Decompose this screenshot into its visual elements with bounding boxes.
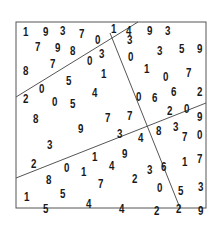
digit: 4 xyxy=(138,131,143,144)
digit: 0 xyxy=(95,33,100,46)
digit: 1 xyxy=(24,190,29,203)
digit: 7 xyxy=(50,57,55,70)
digit: 7 xyxy=(105,111,110,124)
digit-puzzle-board: 1937017980387150420589773201349481715544… xyxy=(0,0,221,236)
digit: 5 xyxy=(66,74,71,87)
divider-line xyxy=(16,22,138,97)
digit: 0 xyxy=(64,161,69,174)
digit: 0 xyxy=(52,95,57,108)
digit: 0 xyxy=(128,50,133,63)
divider-line xyxy=(110,33,180,208)
digit: 2 xyxy=(154,204,159,217)
digit: 0 xyxy=(157,181,162,194)
digit: 0 xyxy=(39,82,44,95)
digit: 9 xyxy=(55,41,60,54)
digit: 1 xyxy=(81,165,86,178)
digit: 5 xyxy=(60,187,65,200)
digit: 7 xyxy=(79,27,84,40)
digit: 1 xyxy=(144,62,149,75)
digit: 9 xyxy=(197,110,202,123)
digit: 3 xyxy=(165,24,170,37)
puzzle-frame xyxy=(16,22,206,208)
digit: 6 xyxy=(161,160,166,173)
digit: 7 xyxy=(127,109,132,122)
digit: 0 xyxy=(197,128,202,141)
digit: 8 xyxy=(70,44,75,57)
digit: 7 xyxy=(182,130,187,143)
digit: 3 xyxy=(147,163,152,176)
digit: 3 xyxy=(157,44,162,57)
digit: 0 xyxy=(136,90,141,103)
digit: 9 xyxy=(198,204,203,217)
digit: 1 xyxy=(92,150,97,163)
digit: 1 xyxy=(23,25,28,38)
digit: 3 xyxy=(99,47,104,60)
digit: 6 xyxy=(152,91,157,104)
digit: 7 xyxy=(186,66,191,79)
digit: 5 xyxy=(70,97,75,110)
digit: 9 xyxy=(147,24,152,37)
digit: 4 xyxy=(86,197,91,210)
digit: 5 xyxy=(43,202,48,215)
digit: 8 xyxy=(23,64,28,77)
digit: 9 xyxy=(197,42,202,55)
digit: 2 xyxy=(132,172,137,185)
digit: 2 xyxy=(23,92,28,105)
digit: 2 xyxy=(31,157,36,170)
digit: 5 xyxy=(179,42,184,55)
digit: 8 xyxy=(46,173,51,186)
digit: 0 xyxy=(184,102,189,115)
digit: 8 xyxy=(156,124,161,137)
digit: 4 xyxy=(119,202,124,215)
digit: 0 xyxy=(87,54,92,67)
digit: 0 xyxy=(163,70,168,83)
digit: 9 xyxy=(43,25,48,38)
digit: 9 xyxy=(122,147,127,160)
digit: 4 xyxy=(92,86,97,99)
digit: 2 xyxy=(167,104,172,117)
digit: 1 xyxy=(101,67,106,80)
digit: 3 xyxy=(47,138,52,151)
digit: 2 xyxy=(197,85,202,98)
digit: 7 xyxy=(98,177,103,190)
digit: 6 xyxy=(171,85,176,98)
digit: 3 xyxy=(60,24,65,37)
digit: 1 xyxy=(111,22,116,35)
digit: 4 xyxy=(109,159,114,172)
digit: 1 xyxy=(182,155,187,168)
digit: 7 xyxy=(197,152,202,165)
digit: 5 xyxy=(178,184,183,197)
digit: 3 xyxy=(127,33,132,46)
digit: 7 xyxy=(35,40,40,53)
digit: 9 xyxy=(78,122,83,135)
digit: 2 xyxy=(176,202,181,215)
digit: 3 xyxy=(198,180,203,193)
digit: 3 xyxy=(173,120,178,133)
digit: 8 xyxy=(33,112,38,125)
digit: 3 xyxy=(117,127,122,140)
